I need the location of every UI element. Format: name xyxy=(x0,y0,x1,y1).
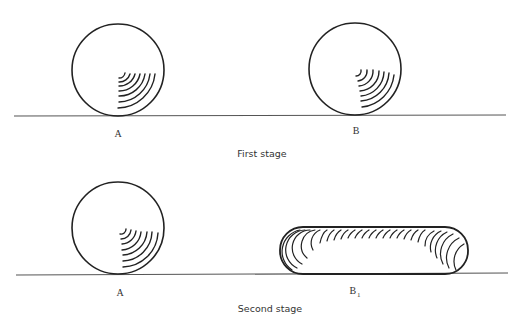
label-b1-second-stage: B1 xyxy=(349,285,360,296)
label-b1-main: B xyxy=(349,285,356,296)
caption-first-stage: First stage xyxy=(237,148,286,159)
ball-a-second-stage xyxy=(72,182,164,274)
label-a-first-stage: A xyxy=(114,128,121,139)
ball-b-first-stage xyxy=(309,23,401,115)
ground-line-first-stage xyxy=(14,115,506,116)
strain-lines-icon xyxy=(282,230,464,270)
ball-a-first-stage xyxy=(72,24,164,116)
label-b1-subscript: 1 xyxy=(357,291,361,299)
capsule-b1-second-stage xyxy=(280,227,468,274)
stage-diagram xyxy=(0,0,520,325)
caption-second-stage: Second stage xyxy=(238,303,302,314)
label-b-first-stage: B xyxy=(353,125,360,136)
label-a-second-stage: A xyxy=(116,287,123,298)
strain-lines-icon xyxy=(120,229,158,267)
